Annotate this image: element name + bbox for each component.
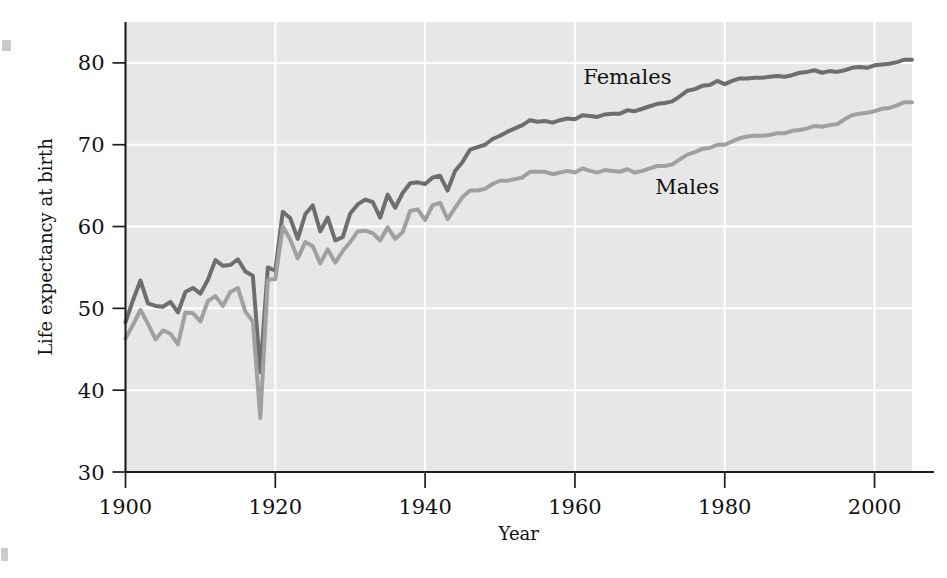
x-axis-tick-label: 1960 [548, 495, 601, 519]
y-axis-tick-label: 70 [78, 133, 105, 157]
y-axis-tick-label: 30 [78, 461, 105, 485]
scan-artifact-bottom [1, 548, 8, 561]
x-axis-tick-label: 1900 [99, 495, 152, 519]
x-axis-tick-label: 1940 [398, 495, 451, 519]
series-annotation-males: Males [655, 175, 719, 199]
x-axis-tick-label: 1920 [249, 495, 302, 519]
y-axis-tick-label: 80 [78, 51, 105, 75]
series-annotation-females: Females [583, 65, 671, 89]
figure-life-expectancy-chart: 304050607080190019201940196019802000 Fem… [0, 0, 947, 578]
x-axis-tick-label: 2000 [848, 495, 901, 519]
plot-area-background [126, 22, 913, 472]
x-axis-tick-label: 1980 [698, 495, 751, 519]
y-axis-tick-label: 50 [78, 297, 105, 321]
scan-artifact-top [2, 40, 11, 51]
x-axis-title: Year [498, 523, 540, 544]
line-chart: 304050607080190019201940196019802000 Fem… [0, 0, 947, 578]
y-axis-tick-label: 60 [78, 215, 105, 239]
y-axis-title: Life expectancy at birth [35, 138, 56, 356]
y-axis-tick-label: 40 [78, 379, 105, 403]
